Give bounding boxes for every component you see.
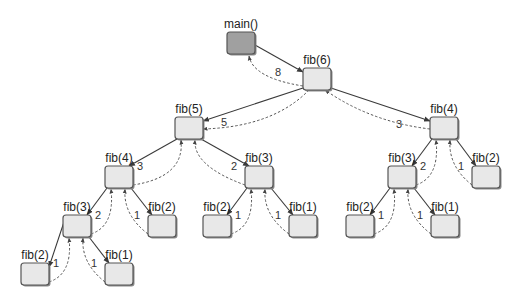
node-box — [63, 215, 91, 237]
node-label: fib(3) — [245, 151, 272, 165]
node-box — [105, 263, 133, 285]
call-node: fib(2) — [21, 248, 51, 287]
call-node: fib(3) — [63, 200, 93, 239]
node-label: fib(6) — [303, 53, 330, 67]
call-node: fib(2) — [472, 151, 502, 190]
call-node: fib(2) — [148, 200, 178, 239]
call-node: fib(1) — [289, 200, 319, 239]
node-box — [289, 215, 317, 237]
node-box — [431, 215, 459, 237]
call-node: fib(2) — [203, 200, 233, 239]
return-value-label: 2 — [231, 160, 237, 172]
call-edge-group: 8 — [249, 45, 303, 86]
return-value-label: 3 — [137, 160, 143, 172]
call-tree-diagram: 853322121111111 main()fib(6)fib(5)fib(4)… — [0, 0, 524, 304]
node-label: fib(2) — [472, 151, 499, 165]
node-label: fib(1) — [289, 200, 316, 214]
node-box — [105, 166, 133, 188]
node-label: main() — [224, 17, 258, 31]
call-node: fib(1) — [105, 248, 135, 287]
return-value-label: 1 — [378, 209, 384, 221]
call-node: fib(5) — [175, 102, 205, 141]
node-box — [148, 215, 176, 237]
call-node: fib(1) — [431, 200, 461, 239]
call-edge-group: 5 — [203, 88, 309, 129]
return-value-label: 1 — [458, 160, 464, 172]
return-value-label: 2 — [95, 209, 101, 221]
node-label: fib(2) — [346, 200, 373, 214]
node-box — [430, 117, 458, 139]
return-arrow — [325, 90, 430, 129]
node-label: fib(1) — [105, 248, 132, 262]
call-node: fib(3) — [245, 151, 275, 190]
node-box — [472, 166, 500, 188]
node-box — [203, 215, 231, 237]
root-node-main: main() — [224, 17, 258, 56]
node-label: fib(2) — [148, 200, 175, 214]
node-label: fib(1) — [431, 200, 458, 214]
node-box — [303, 68, 331, 90]
return-value-label: 1 — [235, 209, 241, 221]
node-label: fib(2) — [21, 248, 48, 262]
return-value-label: 1 — [53, 257, 59, 269]
node-box — [227, 32, 255, 54]
return-value-label: 5 — [221, 116, 227, 128]
node-label: fib(2) — [203, 200, 230, 214]
call-edge-group: 2 — [195, 139, 249, 185]
return-value-label: 1 — [275, 209, 281, 221]
node-box — [175, 117, 203, 139]
call-arrow — [203, 88, 303, 121]
node-label: fib(3) — [63, 200, 90, 214]
call-edge-group: 3 — [129, 139, 181, 185]
node-box — [245, 166, 273, 188]
call-arrow — [331, 88, 430, 121]
node-label: fib(4) — [430, 102, 457, 116]
call-node: fib(4) — [430, 102, 460, 141]
return-value-label: 2 — [420, 160, 426, 172]
return-value-label: 1 — [417, 209, 423, 221]
call-arrow — [201, 139, 249, 166]
return-value-label: 8 — [275, 66, 281, 78]
return-arrow — [203, 90, 309, 129]
return-value-label: 1 — [134, 209, 140, 221]
call-edge-group: 3 — [325, 88, 430, 130]
node-label: fib(5) — [175, 102, 202, 116]
return-value-label: 1 — [91, 257, 97, 269]
call-node: fib(3) — [388, 151, 418, 190]
call-node: fib(6) — [303, 53, 333, 92]
node-box — [346, 215, 374, 237]
call-node: fib(2) — [346, 200, 376, 239]
call-node: fib(4) — [105, 151, 135, 190]
nodes-layer: main()fib(6)fib(5)fib(4)fib(4)fib(3)fib(… — [21, 17, 502, 287]
return-arrow — [195, 140, 245, 185]
node-label: fib(3) — [388, 151, 415, 165]
return-value-label: 3 — [396, 118, 402, 130]
node-label: fib(4) — [105, 151, 132, 165]
node-box — [388, 166, 416, 188]
node-box — [21, 263, 49, 285]
